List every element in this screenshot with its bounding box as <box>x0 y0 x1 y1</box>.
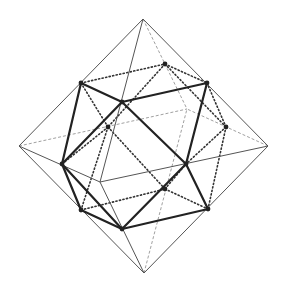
vertex-dot-F <box>224 125 229 130</box>
cuboctahedron-hidden-edge-F-H <box>186 127 226 164</box>
cuboctahedron-hidden-edge-B-F <box>165 64 226 127</box>
octahedron-visible-edges <box>19 19 268 273</box>
cuboctahedron-hidden-edge-C-F <box>207 83 226 127</box>
cuboctahedron-edge-L-K <box>122 209 208 229</box>
cuboctahedron-hidden-edge-B-C <box>165 64 207 83</box>
vertex-dot-E <box>106 125 111 130</box>
cuboctahedron-edge-A-G <box>62 83 81 164</box>
vertex-dot-B <box>163 62 168 67</box>
cuboctahedron-edge-C-H <box>186 83 207 164</box>
cuboctahedron-hidden-edge-A-B <box>81 64 165 83</box>
cuboctahedron-edge-G-L <box>62 164 122 229</box>
vertex-dot-A <box>79 81 84 86</box>
vertex-dot-H <box>184 162 189 167</box>
cuboctahedron-edge-D-C <box>122 83 207 102</box>
cuboctahedron-edge-H-K <box>186 164 208 209</box>
cuboctahedron-edge-J-L <box>81 210 122 229</box>
vertex-dot-D <box>120 100 125 105</box>
cuboctahedron-hidden-edge-F-K <box>208 127 226 209</box>
cuboctahedron-in-octahedron-diagram <box>0 0 281 285</box>
cuboctahedron-edge-G-J <box>62 164 81 210</box>
cuboctahedron-hidden-edge-I-K <box>165 189 208 209</box>
octahedron-edge-left-front <box>19 146 100 182</box>
vertex-dot-G <box>60 162 65 167</box>
vertex-dot-K <box>206 207 211 212</box>
cuboctahedron-edge-H-L <box>122 164 186 229</box>
vertex-dot-C <box>205 81 210 86</box>
vertex-dot-L <box>120 227 125 232</box>
vertex-dot-J <box>79 208 84 213</box>
octahedron-hidden-edges <box>19 19 268 273</box>
vertex-dot-I <box>163 187 168 192</box>
